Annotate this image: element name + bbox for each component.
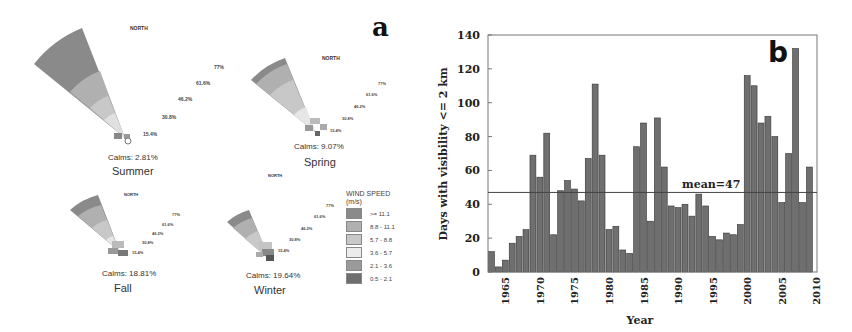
y-tick-label: 100 bbox=[457, 97, 480, 110]
bar bbox=[565, 181, 571, 272]
bar bbox=[558, 191, 564, 272]
visibility-bar-chart: 020406080100120140 196519701975198019851… bbox=[0, 0, 852, 332]
bar bbox=[606, 230, 612, 272]
bars bbox=[489, 49, 813, 272]
bar bbox=[585, 159, 591, 272]
bar bbox=[530, 155, 536, 272]
bar bbox=[779, 203, 785, 272]
bar bbox=[765, 116, 771, 272]
bar bbox=[696, 194, 702, 272]
panel-label-b: b bbox=[768, 36, 788, 69]
bar bbox=[786, 154, 792, 273]
bar bbox=[806, 167, 812, 272]
bar bbox=[675, 208, 681, 272]
bar bbox=[571, 189, 577, 272]
y-tick-label: 140 bbox=[457, 29, 480, 42]
bar bbox=[523, 230, 529, 272]
bar bbox=[682, 204, 688, 272]
bar bbox=[516, 236, 522, 272]
bar bbox=[495, 267, 501, 272]
bar bbox=[489, 252, 495, 272]
bar bbox=[758, 123, 764, 272]
bar bbox=[793, 49, 799, 272]
x-tick-label: 2005 bbox=[777, 277, 788, 305]
x-tick-label: 1975 bbox=[569, 277, 580, 305]
bar bbox=[551, 235, 557, 272]
bar bbox=[627, 253, 633, 272]
x-tick-label: 1985 bbox=[639, 277, 650, 305]
bar bbox=[641, 123, 647, 272]
x-tick-label: 1990 bbox=[673, 277, 684, 305]
bar bbox=[509, 243, 515, 272]
bar bbox=[661, 167, 667, 272]
x-axis: 1965197019751980198519901995200020052010 bbox=[500, 277, 822, 305]
x-tick-label: 1965 bbox=[500, 277, 511, 305]
y-tick-label: 120 bbox=[457, 63, 480, 76]
y-tick-label: 40 bbox=[465, 198, 481, 211]
bar bbox=[537, 177, 543, 272]
bar bbox=[544, 133, 550, 272]
y-axis-title: Days with visibility <= 2 km bbox=[437, 67, 450, 240]
bar bbox=[578, 201, 584, 272]
y-tick-label: 80 bbox=[465, 131, 481, 144]
bar bbox=[751, 86, 757, 272]
bar bbox=[730, 235, 736, 272]
bar bbox=[654, 118, 660, 272]
bar bbox=[800, 203, 806, 272]
bar bbox=[717, 240, 723, 272]
bar bbox=[744, 76, 750, 272]
bar bbox=[703, 206, 709, 272]
bar bbox=[668, 206, 674, 272]
x-tick-label: 2010 bbox=[811, 277, 822, 305]
bar bbox=[620, 250, 626, 272]
y-tick-label: 0 bbox=[472, 266, 480, 279]
bar bbox=[613, 226, 619, 272]
bar bbox=[502, 260, 508, 272]
x-tick-label: 2000 bbox=[742, 277, 753, 305]
x-tick-label: 1970 bbox=[535, 277, 546, 305]
bar bbox=[710, 236, 716, 272]
bar bbox=[689, 216, 695, 272]
bar bbox=[634, 147, 640, 272]
bar bbox=[599, 155, 605, 272]
x-tick-label: 1995 bbox=[708, 277, 719, 305]
mean-label: mean=47 bbox=[682, 178, 740, 191]
bar bbox=[592, 84, 598, 272]
y-tick-label: 60 bbox=[465, 164, 481, 177]
x-tick-label: 1980 bbox=[604, 277, 615, 305]
x-axis-title: Year bbox=[626, 314, 654, 327]
y-axis: 020406080100120140 bbox=[457, 29, 492, 279]
bar bbox=[647, 221, 653, 272]
bar bbox=[724, 233, 730, 272]
bar bbox=[772, 137, 778, 272]
bar bbox=[737, 225, 743, 272]
y-tick-label: 20 bbox=[465, 232, 481, 245]
